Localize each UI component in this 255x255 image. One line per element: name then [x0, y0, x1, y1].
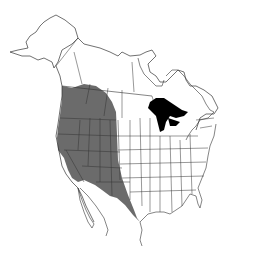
north-america-map [0, 0, 255, 255]
range-map [0, 0, 255, 255]
